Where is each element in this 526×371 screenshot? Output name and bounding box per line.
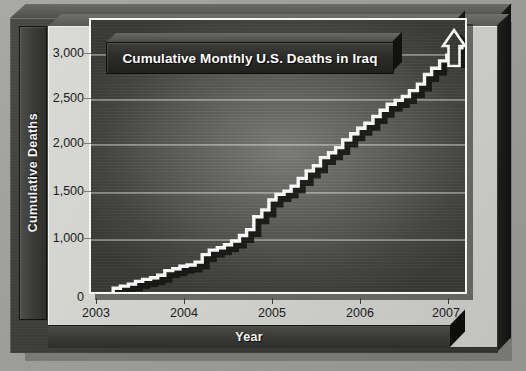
y-axis-title: Cumulative Deaths <box>26 113 40 232</box>
y-tick-label-1500: 1,500 <box>26 184 84 198</box>
x-tick-label-2005: 2005 <box>242 306 302 320</box>
y-tick-mark <box>84 191 91 192</box>
series-line <box>113 42 462 295</box>
x-tick-mark <box>272 298 273 304</box>
x-tick-mark <box>360 298 361 304</box>
x-axis-title-band: Year <box>48 325 450 348</box>
chart-title: Cumulative Monthly U.S. Deaths in Iraq <box>122 51 377 66</box>
chart-canvas: Cumulative Deaths 3,000 2,500 2,000 1,50… <box>0 0 526 371</box>
series-line-shadow <box>118 46 467 294</box>
title-banner-top-bevel <box>106 33 402 42</box>
gridlines <box>91 55 467 240</box>
y-tick-label-3000: 3,000 <box>26 46 84 60</box>
x-tick-label-2004: 2004 <box>154 306 214 320</box>
x-tick-mark <box>448 298 449 304</box>
y-tick-mark <box>84 143 91 144</box>
x-tick-mark <box>96 298 97 304</box>
y-tick-mark <box>84 53 91 54</box>
y-tick-label-2500: 2,500 <box>26 91 84 105</box>
x-axis-title: Year <box>235 330 263 344</box>
frame-right-bevel <box>497 4 511 352</box>
x-tick-mark <box>184 298 185 304</box>
x-tick-label-2007: 2007 <box>416 306 476 320</box>
y-tick-label-2000: 2,000 <box>26 136 84 150</box>
y-tick-mark <box>84 238 91 239</box>
chart-title-banner: Cumulative Monthly U.S. Deaths in Iraq <box>106 42 394 74</box>
x-tick-label-2003: 2003 <box>66 306 126 320</box>
y-axis-title-panel: Cumulative Deaths <box>19 26 47 320</box>
x-tick-label-2006: 2006 <box>330 306 390 320</box>
y-tick-mark <box>84 98 91 99</box>
y-tick-label-1000: 1,000 <box>26 231 84 245</box>
y-tick-label-0: 0 <box>26 290 84 304</box>
